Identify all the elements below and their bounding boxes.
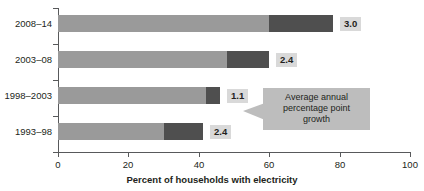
x-axis-tick-label: 100 — [402, 159, 418, 170]
callout-line-3: growth — [266, 114, 367, 125]
bar-segment-growth — [206, 87, 220, 104]
x-axis-tick-label: 40 — [194, 159, 205, 170]
callout-line-1: Average annual — [266, 92, 367, 103]
value-label: 3.0 — [340, 17, 361, 31]
x-axis-title: Percent of households with electricity — [0, 174, 424, 185]
x-axis-tick-label: 60 — [264, 159, 275, 170]
x-axis-tick — [128, 152, 129, 157]
category-label-1993-98: 1993–98 — [15, 127, 52, 137]
plot-area: 2008–14 3.0 2003–08 2.4 1998–2003 1.1 19… — [0, 0, 424, 191]
bar-segment-base — [58, 51, 227, 68]
bar-chart: 2008–14 3.0 2003–08 2.4 1998–2003 1.1 19… — [0, 0, 424, 191]
x-axis-tick-label: 20 — [123, 159, 134, 170]
x-axis-tick — [199, 152, 200, 157]
x-axis-tick — [340, 152, 341, 157]
callout-line-2: percentage point — [266, 103, 367, 114]
x-axis-line — [58, 152, 411, 153]
callout-annotation: Average annual percentage point growth — [263, 88, 370, 130]
x-axis-tick — [410, 152, 411, 157]
y-axis-tick — [53, 116, 58, 117]
bar-segment-growth — [227, 51, 269, 68]
value-label: 2.4 — [210, 125, 231, 139]
y-axis-tick — [53, 8, 58, 9]
x-axis-tick — [269, 152, 270, 157]
bar-segment-base — [58, 87, 206, 104]
x-axis-tick-label: 80 — [335, 159, 346, 170]
callout-tail — [243, 103, 265, 120]
category-label-2008-14: 2008–14 — [15, 19, 52, 29]
value-label: 1.1 — [227, 89, 248, 103]
y-axis-tick — [53, 80, 58, 81]
x-axis-tick-label: 0 — [55, 159, 60, 170]
y-axis-tick — [53, 44, 58, 45]
bar-segment-growth — [269, 15, 333, 32]
category-label-2003-08: 2003–08 — [15, 55, 52, 65]
bar-segment-growth — [164, 123, 203, 140]
category-label-1998-2003: 1998–2003 — [4, 91, 52, 101]
bar-segment-base — [58, 15, 269, 32]
x-axis-tick — [58, 152, 59, 157]
bar-segment-base — [58, 123, 164, 140]
value-label: 2.4 — [276, 53, 297, 67]
